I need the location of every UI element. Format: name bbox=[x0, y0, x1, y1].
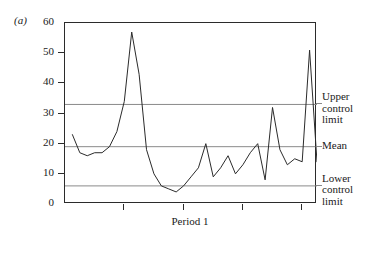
series-svg bbox=[65, 23, 317, 204]
y-tick-label-0: 0 bbox=[28, 197, 54, 208]
x-tick-mark-4 bbox=[301, 204, 302, 210]
normalized-errors-line bbox=[72, 32, 317, 192]
x-tick-mark-3 bbox=[242, 204, 243, 210]
mean-label: Mean bbox=[322, 140, 347, 152]
upper-control-limit-label: Upper control limit bbox=[322, 91, 353, 126]
plot-area bbox=[64, 22, 316, 203]
y-tick-label-10: 10 bbox=[28, 167, 54, 178]
y-tick-label-50: 50 bbox=[28, 46, 54, 57]
x-tick-mark-1 bbox=[123, 204, 124, 210]
y-tick-label-60: 60 bbox=[28, 16, 54, 27]
y-tick-label-20: 20 bbox=[28, 137, 54, 148]
y-tick-label-40: 40 bbox=[28, 76, 54, 87]
lower-control-limit-label: Lower control limit bbox=[322, 173, 353, 208]
y-tick-label-30: 30 bbox=[28, 107, 54, 118]
figure-panel: (a) Normalized errors 60 50 40 30 20 10 … bbox=[0, 0, 387, 261]
x-tick-mark-2 bbox=[183, 204, 184, 210]
x-axis-label: Period 1 bbox=[64, 215, 316, 227]
